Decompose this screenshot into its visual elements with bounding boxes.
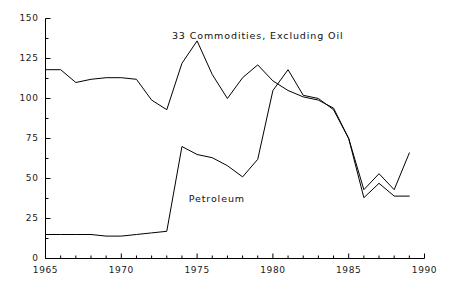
y-tick-label: 100 [20, 93, 39, 103]
chart-plot-area [0, 0, 452, 293]
x-tick-label: 1980 [243, 265, 303, 275]
x-tick-label: 1975 [167, 265, 227, 275]
x-tick-label: 1965 [16, 265, 76, 275]
y-tick-label: 0 [32, 253, 38, 263]
x-tick-label: 1970 [91, 265, 151, 275]
data-series-lines [46, 41, 410, 236]
y-tick-label: 50 [26, 173, 39, 183]
series-line-petroleum [46, 70, 410, 236]
y-tick-label: 25 [26, 213, 39, 223]
series-line-commodities [46, 41, 410, 190]
x-tick-label: 1985 [319, 265, 379, 275]
series-label-commodities: 33 Commodities, Excluding Oil [172, 30, 344, 41]
price-index-line-chart: 0255075100125150 19651970197519801985199… [0, 0, 452, 293]
y-tick-label: 150 [20, 13, 39, 23]
axes [46, 19, 425, 259]
y-tick-label: 75 [26, 133, 39, 143]
series-label-petroleum: Petroleum [189, 193, 245, 204]
axis-ticks [46, 19, 425, 259]
y-tick-label: 125 [20, 53, 39, 63]
x-tick-label: 1990 [395, 265, 452, 275]
